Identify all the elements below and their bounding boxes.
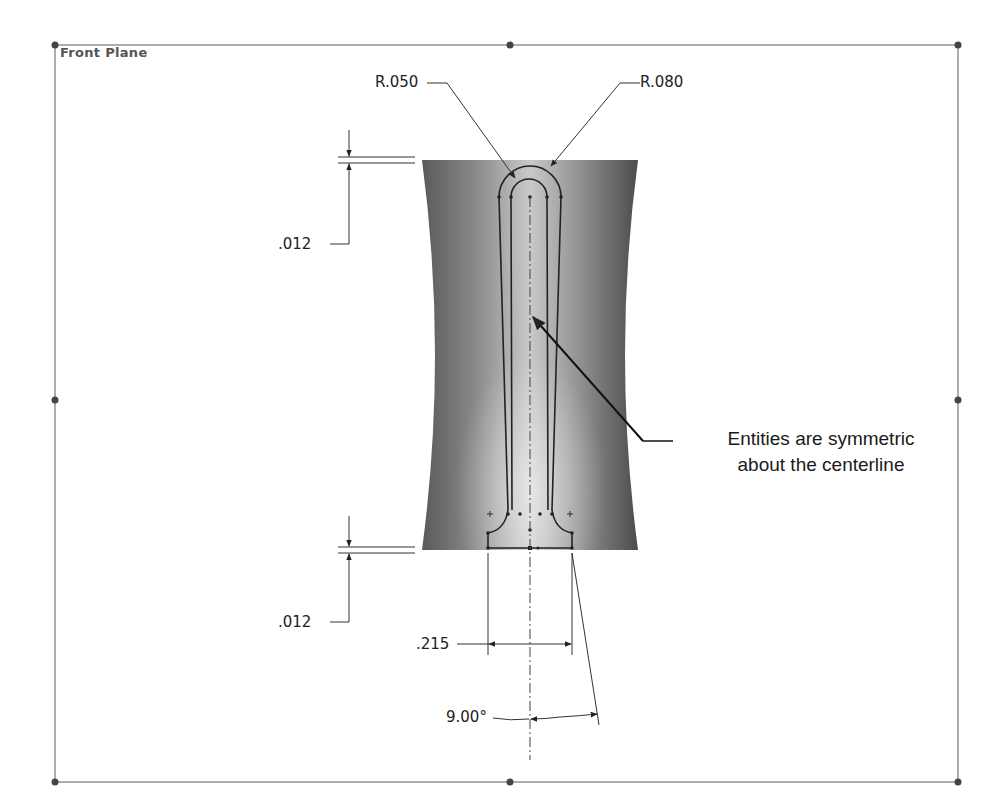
handle-bottom-right [955,779,962,786]
handle-top-left [52,42,59,49]
dimension-base-width[interactable] [457,553,572,655]
handle-top-right [955,42,962,49]
dimension-bottom-offset[interactable] [330,516,415,622]
top-offset-dimension[interactable]: .012 [278,235,311,253]
plane-label: Front Plane [60,45,148,60]
dimension-angle[interactable] [493,553,599,725]
handle-bottom-left [52,779,59,786]
handle-mid-right [955,397,962,404]
sketch-canvas[interactable] [0,0,1008,796]
symmetry-note-line2: about the centerline [676,452,966,478]
symmetry-note: Entities are symmetric about the centerl… [676,426,966,478]
radius-inner-dimension[interactable]: R.050 [375,73,418,91]
dimension-top-offset[interactable] [330,130,415,244]
base-width-dimension[interactable]: .215 [416,635,449,653]
handle-bottom-mid [507,779,514,786]
handle-mid-left [52,397,59,404]
radius-outer-dimension[interactable]: R.080 [640,73,683,91]
handle-top-mid [507,42,514,49]
symmetry-note-line1: Entities are symmetric [676,426,966,452]
bottom-offset-dimension[interactable]: .012 [278,613,311,631]
angle-dimension[interactable]: 9.00° [446,708,487,726]
